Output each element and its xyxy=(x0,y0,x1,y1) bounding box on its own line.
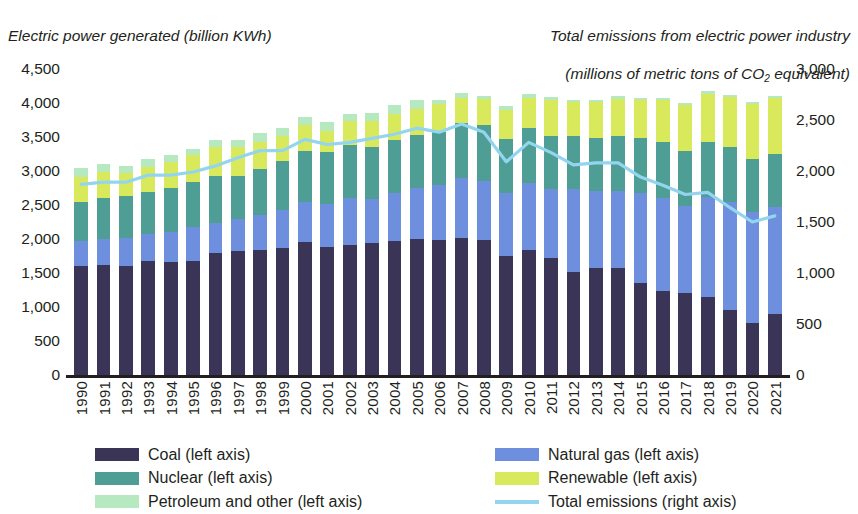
x-axis-label-2006: 2006 xyxy=(431,381,448,415)
x-axis-label-2001: 2001 xyxy=(319,381,336,415)
legend-label-coal: Coal (left axis) xyxy=(148,446,250,464)
legend-label-nuclear: Nuclear (left axis) xyxy=(148,469,272,487)
x-axis-label-2012: 2012 xyxy=(565,381,582,415)
x-axis-label-2005: 2005 xyxy=(409,381,426,415)
legend-color-swatch-gas xyxy=(495,448,539,461)
x-axis-label-2013: 2013 xyxy=(588,381,605,415)
left-axis-title: Electric power generated (billion KWh) xyxy=(8,26,272,45)
x-axis-label-2002: 2002 xyxy=(342,381,359,415)
legend-item-gas[interactable]: Natural gas (left axis) xyxy=(495,443,737,467)
x-axis-label-1993: 1993 xyxy=(140,381,157,415)
x-axis-label-1991: 1991 xyxy=(96,381,113,415)
x-axis-label-2010: 2010 xyxy=(521,381,538,415)
left-axis-tick: 4,500 xyxy=(0,60,60,78)
x-axis-label-1994: 1994 xyxy=(163,381,180,415)
x-axis-label-2014: 2014 xyxy=(610,381,627,415)
right-axis-tick: 3,000 xyxy=(796,60,858,78)
chart-legend: Coal (left axis)Nuclear (left axis)Petro… xyxy=(0,443,858,514)
x-axis-label-2000: 2000 xyxy=(297,381,314,415)
x-axis-label-1990: 1990 xyxy=(73,381,90,415)
x-axis-label-2017: 2017 xyxy=(677,381,694,415)
x-axis-label-2015: 2015 xyxy=(633,381,650,415)
left-axis-tick: 2,500 xyxy=(0,196,60,214)
right-axis-tick: 2,500 xyxy=(796,111,858,129)
legend-color-swatch-renewable xyxy=(495,472,539,485)
right-axis-tick: 2,000 xyxy=(796,162,858,180)
left-axis-tick: 3,000 xyxy=(0,162,60,180)
x-axis-label-1996: 1996 xyxy=(207,381,224,415)
x-axis-label-2004: 2004 xyxy=(386,381,403,415)
legend-item-emissions[interactable]: Total emissions (right axis) xyxy=(495,490,737,514)
x-axis-label-1992: 1992 xyxy=(118,381,135,415)
left-axis-tick: 2,000 xyxy=(0,230,60,248)
x-axis-label-2018: 2018 xyxy=(700,381,717,415)
right-axis-tick: 1,500 xyxy=(796,213,858,231)
right-axis-tick: 1,000 xyxy=(796,264,858,282)
legend-label-petroleum: Petroleum and other (left axis) xyxy=(148,493,362,511)
x-axis-label-2021: 2021 xyxy=(767,381,784,415)
left-axis-tick: 1,000 xyxy=(0,298,60,316)
legend-column-left: Coal (left axis)Nuclear (left axis)Petro… xyxy=(95,443,362,514)
x-axis-label-2009: 2009 xyxy=(498,381,515,415)
right-axis-tick: 0 xyxy=(796,366,858,384)
x-axis-label-2007: 2007 xyxy=(454,381,471,415)
legend-color-swatch-petroleum xyxy=(95,495,139,508)
x-axis-label-1997: 1997 xyxy=(230,381,247,415)
legend-item-renewable[interactable]: Renewable (left axis) xyxy=(495,467,737,491)
x-axis-label-2016: 2016 xyxy=(655,381,672,415)
x-axis-label-2020: 2020 xyxy=(744,381,761,415)
left-axis-tick: 3,500 xyxy=(0,128,60,146)
legend-line-swatch-emissions xyxy=(495,500,539,504)
legend-label-emissions: Total emissions (right axis) xyxy=(548,493,737,511)
legend-item-petroleum[interactable]: Petroleum and other (left axis) xyxy=(95,490,362,514)
legend-column-right: Natural gas (left axis)Renewable (left a… xyxy=(495,443,737,514)
x-axis-label-2019: 2019 xyxy=(722,381,739,415)
legend-label-renewable: Renewable (left axis) xyxy=(548,469,697,487)
legend-label-gas: Natural gas (left axis) xyxy=(548,446,699,464)
x-axis-label-2011: 2011 xyxy=(543,381,560,414)
x-axis-label-2003: 2003 xyxy=(364,381,381,415)
left-axis-tick: 500 xyxy=(0,332,60,350)
x-axis-label-2008: 2008 xyxy=(476,381,493,415)
legend-color-swatch-coal xyxy=(95,448,139,461)
right-axis-tick: 500 xyxy=(796,315,858,333)
emissions-line-layer xyxy=(70,69,786,375)
right-axis-title-line1: Total emissions from electric power indu… xyxy=(550,26,850,45)
left-axis-tick: 1,500 xyxy=(0,264,60,282)
left-axis-tick: 4,000 xyxy=(0,94,60,112)
emissions-line xyxy=(81,124,775,222)
x-axis-baseline xyxy=(66,375,790,378)
left-axis-tick: 0 xyxy=(0,366,60,384)
x-axis-label-1998: 1998 xyxy=(252,381,269,415)
legend-item-nuclear[interactable]: Nuclear (left axis) xyxy=(95,467,362,491)
x-axis-label-1995: 1995 xyxy=(185,381,202,415)
plot-area xyxy=(70,69,786,375)
legend-item-coal[interactable]: Coal (left axis) xyxy=(95,443,362,467)
x-axis-label-1999: 1999 xyxy=(275,381,292,415)
legend-color-swatch-nuclear xyxy=(95,472,139,485)
